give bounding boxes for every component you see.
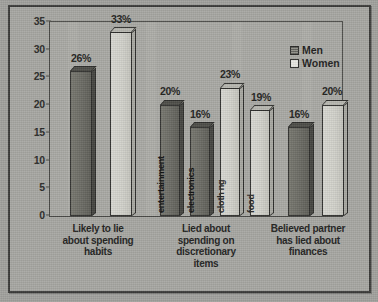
paper-band: [146, 22, 156, 216]
bar-men-likely-to-lie: [70, 71, 92, 216]
bar-front-face: [70, 71, 92, 216]
bar-side-face: [240, 85, 244, 216]
y-tick-label: 25: [19, 71, 45, 81]
bar-women-food: food: [250, 110, 270, 216]
legend-label-men: Men: [302, 44, 323, 56]
bar-women-clothing: cloth ng: [220, 88, 240, 216]
plot-area: 26% 33% entertainment 20%: [49, 21, 343, 217]
bar-side-face: [132, 29, 136, 216]
bar-inner-label-electronics: electronics: [186, 168, 196, 213]
legend: Men Women: [290, 44, 340, 70]
bar-value-label: 16%: [289, 109, 309, 120]
bar-side-face: [92, 68, 96, 216]
bar-inner-label-clothing: cloth ng: [216, 180, 226, 213]
bar-side-face: [344, 101, 348, 216]
bar-inner-label-entertainment: entertainment: [156, 156, 166, 213]
legend-swatch-women-icon: [290, 59, 299, 68]
bar-value-label: 26%: [71, 53, 91, 64]
legend-item-men: Men: [290, 44, 340, 56]
bar-value-label: 20%: [160, 86, 180, 97]
bar-men-electronics: electronics: [190, 127, 210, 216]
bar-side-face: [270, 107, 274, 216]
y-tick-label: 15: [19, 127, 45, 137]
scanned-chart-page: 35 30 25 20 15 10 5 0: [0, 0, 378, 302]
bar-value-label: 23%: [220, 69, 240, 80]
y-axis: 35 30 25 20 15 10 5 0: [18, 16, 51, 222]
y-tick-label: 35: [19, 16, 45, 26]
bar-value-label: 16%: [190, 109, 210, 120]
bar-front-face: [322, 105, 344, 216]
category-label-lied-about-spending: Lied about spending on discretionary ite…: [154, 223, 258, 269]
bar-side-face: [210, 124, 214, 216]
bar-value-label: 20%: [322, 86, 342, 97]
legend-label-women: Women: [302, 57, 340, 69]
category-label-likely-to-lie: Likely to lie about spending habits: [42, 223, 154, 258]
y-tick-label: 5: [19, 182, 45, 192]
category-label-believed-partner: Believed partner has lied about finances: [253, 223, 363, 258]
bar-front-face: [288, 127, 310, 216]
bar-inner-label-food: food: [246, 194, 256, 213]
bar-front-face: [110, 32, 132, 216]
y-tick-label: 20: [19, 99, 45, 109]
chart-frame: 35 30 25 20 15 10 5 0: [8, 5, 371, 293]
y-tick-label: 0: [19, 210, 45, 220]
bar-women-believed-partner: [322, 105, 344, 216]
legend-swatch-men-icon: [290, 46, 299, 55]
bar-side-face: [310, 124, 314, 216]
bar-men-believed-partner: [288, 127, 310, 216]
y-tick-label: 30: [19, 44, 45, 54]
bar-value-label: 33%: [111, 14, 131, 25]
bar-side-face: [180, 101, 184, 216]
bar-men-entertainment: entertainment: [160, 105, 180, 216]
y-tick-label: 10: [19, 155, 45, 165]
bar-women-likely-to-lie: [110, 32, 132, 216]
legend-item-women: Women: [290, 57, 340, 69]
bar-value-label: 19%: [251, 92, 271, 103]
